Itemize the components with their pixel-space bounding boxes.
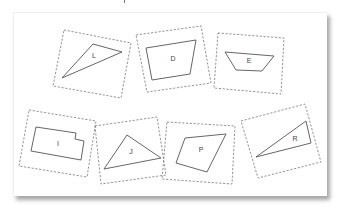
shape-card-r[interactable]: R bbox=[241, 104, 321, 178]
shape-label: P bbox=[199, 146, 204, 153]
card-dashed-border bbox=[162, 122, 235, 184]
shape-card-e[interactable]: E bbox=[214, 33, 284, 94]
shape-label: J bbox=[129, 148, 133, 155]
shape-label: D bbox=[170, 55, 175, 62]
shape-label: R bbox=[292, 135, 297, 142]
shape-cards-scene: LDEIJPR bbox=[0, 0, 341, 209]
shape-label: E bbox=[247, 57, 252, 64]
shape-card-j[interactable]: J bbox=[95, 117, 166, 184]
shape-card-p[interactable]: P bbox=[162, 122, 235, 184]
shape-card-d[interactable]: D bbox=[136, 26, 211, 92]
shape-label: L bbox=[92, 52, 96, 59]
quadrilateral-shape bbox=[176, 134, 226, 172]
triangle-shape bbox=[256, 121, 311, 157]
shape-label: I bbox=[57, 140, 59, 147]
card-dashed-border bbox=[241, 104, 321, 178]
triangle-shape bbox=[62, 44, 122, 78]
shape-card-i[interactable]: I bbox=[19, 110, 96, 177]
card-dashed-border bbox=[53, 30, 131, 98]
shape-card-l[interactable]: L bbox=[53, 30, 131, 98]
